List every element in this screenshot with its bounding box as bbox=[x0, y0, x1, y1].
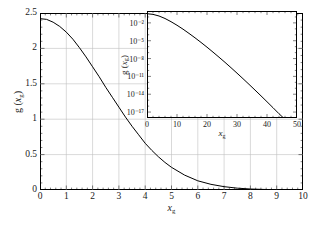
main-x-tick-label: 1 bbox=[64, 192, 69, 202]
main-y-tick-label: 0.5 bbox=[25, 150, 37, 160]
inset-x-tick-label: 20 bbox=[203, 120, 211, 129]
main-x-axis-label: xg bbox=[168, 202, 176, 214]
main-y-tick-label: 1.5 bbox=[25, 79, 37, 89]
inset-y-tick-label: 10⁻⁸ bbox=[129, 54, 144, 63]
main-x-tick-label: 8 bbox=[248, 192, 253, 202]
inset-plot-graphics bbox=[147, 11, 297, 118]
inset-y-tick-label: 10⁻¹⁷ bbox=[127, 108, 144, 117]
main-x-tick-label: 7 bbox=[222, 192, 227, 202]
inset-plot: g (xg) xg 10⁻²10⁻⁵10⁻⁸10⁻¹¹10⁻¹⁴10⁻¹⁷010… bbox=[147, 11, 297, 118]
main-x-tick-label: 0 bbox=[38, 192, 43, 202]
main-x-tick-label: 5 bbox=[169, 192, 174, 202]
main-x-tick-label: 6 bbox=[195, 192, 200, 202]
main-y-tick-label: 0 bbox=[32, 185, 37, 195]
inset-x-tick-label: 30 bbox=[233, 120, 241, 129]
inset-y-tick-label: 10⁻⁵ bbox=[129, 36, 144, 45]
figure-canvas: g (xg) xg 00.511.522.5012345678910 g (xg… bbox=[0, 0, 310, 227]
inset-x-tick-label: 0 bbox=[145, 120, 149, 129]
main-y-axis-label: g (xg) bbox=[12, 90, 24, 112]
inset-x-tick-label: 10 bbox=[173, 120, 181, 129]
inset-y-tick-label: 10⁻¹¹ bbox=[127, 72, 144, 81]
inset-x-tick-label: 40 bbox=[263, 120, 271, 129]
main-x-tick-label: 4 bbox=[143, 192, 148, 202]
inset-x-axis-label: xg bbox=[218, 128, 225, 139]
main-x-tick-label: 3 bbox=[117, 192, 122, 202]
inset-y-tick-label: 10⁻¹⁴ bbox=[127, 90, 144, 99]
main-y-tick-label: 2.5 bbox=[25, 8, 37, 18]
main-x-tick-label: 2 bbox=[90, 192, 95, 202]
main-y-tick-label: 1 bbox=[32, 114, 37, 124]
inset-y-tick-label: 10⁻² bbox=[130, 18, 144, 27]
inset-x-tick-label: 50 bbox=[293, 120, 301, 129]
main-x-tick-label: 10 bbox=[298, 192, 308, 202]
main-x-tick-label: 9 bbox=[274, 192, 279, 202]
main-y-tick-label: 2 bbox=[32, 44, 37, 54]
